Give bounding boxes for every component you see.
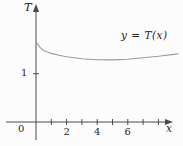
y-axis-arrowhead bbox=[33, 4, 39, 12]
x-tick-label: 2 bbox=[63, 127, 69, 137]
origin-label: 0 bbox=[18, 124, 24, 134]
curve-annotation-label: y = T(x) bbox=[121, 30, 168, 41]
plot-canvas bbox=[0, 0, 183, 146]
temperature-line-chart: T x 0 1 y = T(x) 246 bbox=[0, 0, 183, 146]
x-tick-label: 6 bbox=[125, 127, 131, 137]
y-tick-label: 1 bbox=[21, 68, 27, 78]
x-tick-label: 4 bbox=[94, 127, 100, 137]
temperature-curve bbox=[36, 41, 178, 60]
x-axis-label: x bbox=[166, 123, 172, 134]
y-axis-label: T bbox=[24, 2, 32, 14]
